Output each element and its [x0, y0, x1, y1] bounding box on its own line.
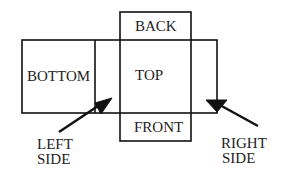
- label-bottom: BOTTOM: [27, 68, 90, 84]
- label-left-side-line1: LEFT: [37, 136, 73, 152]
- label-top: TOP: [135, 67, 163, 83]
- label-front: FRONT: [134, 119, 183, 135]
- right-side-arrow-shaft: [218, 104, 258, 126]
- label-left-side-line2: SIDE: [37, 151, 70, 167]
- label-back: BACK: [135, 18, 177, 34]
- left-side-arrow-shaft: [59, 104, 101, 132]
- label-right-side-line2: SIDE: [222, 150, 255, 166]
- label-right-side-line1: RIGHT: [221, 135, 267, 151]
- box-net-diagram: BACK BOTTOM TOP FRONT LEFT SIDE RIGHT SI…: [0, 0, 285, 175]
- left-side-arrowhead-icon: [95, 98, 112, 114]
